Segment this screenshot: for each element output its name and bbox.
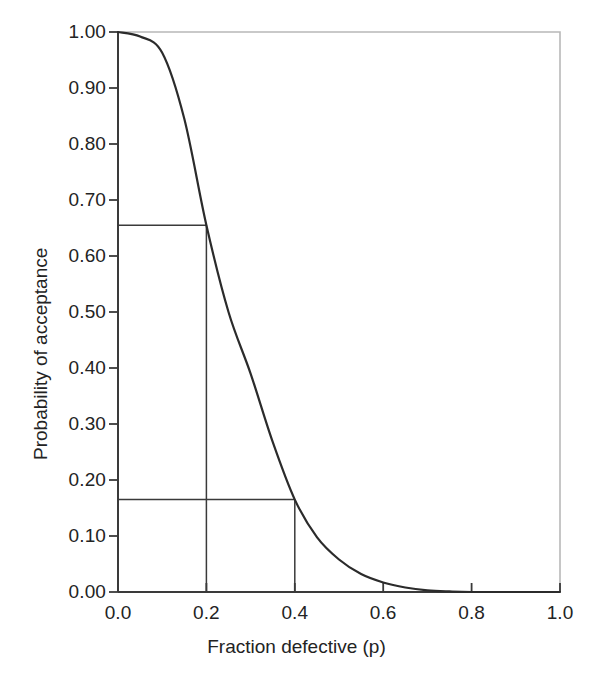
y-tick-label: 0.00 [30, 581, 106, 603]
oc-curve-figure: 0.000.100.200.300.400.500.600.700.800.90… [0, 0, 593, 677]
y-tick-label: 0.20 [30, 469, 106, 491]
x-tick-label: 0.6 [370, 602, 397, 624]
oc-curve-line [118, 32, 560, 592]
y-tick-label: 1.00 [30, 21, 106, 43]
y-tick-label: 0.70 [30, 189, 106, 211]
x-axis-title: Fraction defective (p) [0, 636, 593, 658]
y-tick-label: 0.90 [30, 77, 106, 99]
x-tick-label: 0.2 [193, 602, 220, 624]
x-tick-label: 0.8 [458, 602, 485, 624]
x-axis-ticks [118, 583, 560, 592]
plot-area [0, 0, 593, 677]
y-axis-title: Probability of acceptance [30, 248, 52, 460]
x-tick-label: 0.0 [105, 602, 132, 624]
y-tick-label: 0.10 [30, 525, 106, 547]
y-axis-ticks [109, 32, 118, 592]
y-tick-label: 0.80 [30, 133, 106, 155]
x-tick-label: 1.0 [547, 602, 574, 624]
x-tick-label: 0.4 [281, 602, 308, 624]
annotation-lines [118, 225, 295, 592]
